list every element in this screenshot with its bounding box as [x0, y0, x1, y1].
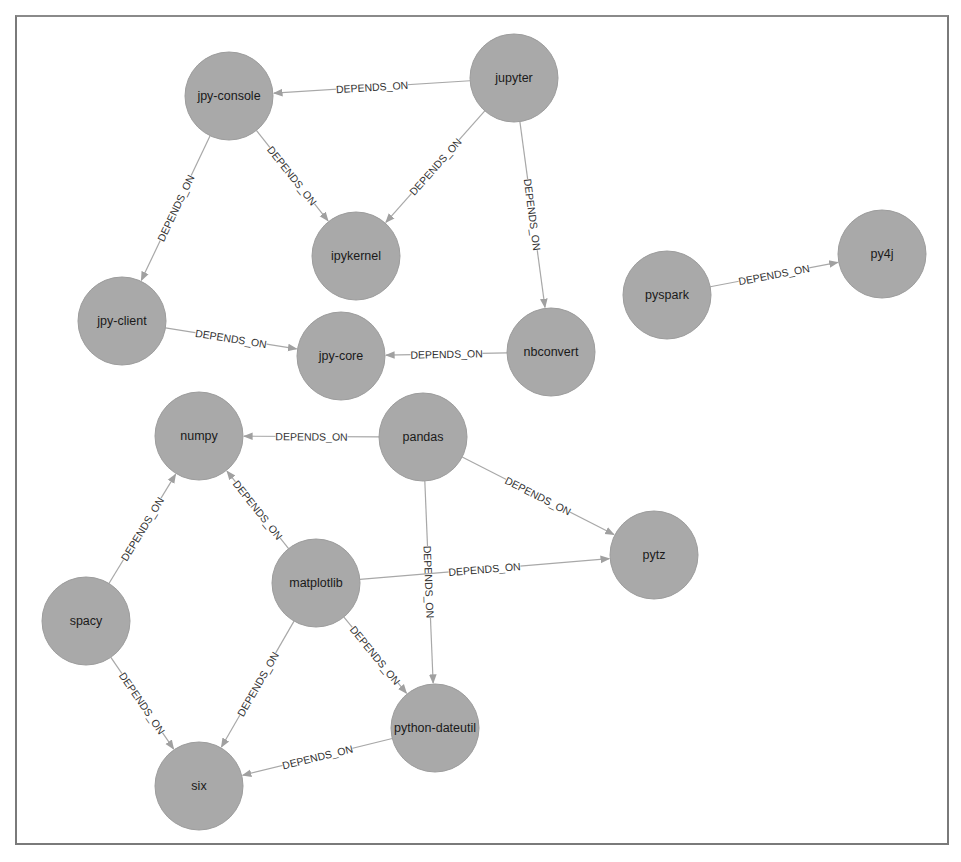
edge-label: DEPENDS_ON [407, 136, 464, 198]
node-label: jpy-console [196, 89, 260, 103]
edge-jpy-console-to-jpy-client[interactable]: DEPENDS_ON [141, 136, 210, 281]
node-label: numpy [180, 429, 218, 443]
node-label: ipykernel [331, 249, 381, 263]
node-label: jupyter [494, 71, 533, 85]
node-label: py4j [871, 247, 894, 261]
dependency-graph[interactable]: DEPENDS_ONDEPENDS_ONDEPENDS_ONDEPENDS_ON… [0, 0, 961, 862]
edge-label: DEPENDS_ON [421, 546, 436, 619]
edge-jpy-client-to-jpy-core[interactable]: DEPENDS_ON [165, 326, 296, 350]
edge-jupyter-to-ipykernel[interactable]: DEPENDS_ON [386, 111, 485, 222]
edge-jupyter-to-nbconvert[interactable]: DEPENDS_ON [520, 122, 545, 308]
node-label: spacy [70, 614, 103, 628]
node-jpy-core[interactable]: jpy-core [297, 312, 385, 400]
node-python-dateutil[interactable]: python-dateutil [391, 684, 479, 772]
node-label: six [191, 779, 207, 793]
node-jpy-client[interactable]: jpy-client [78, 277, 166, 365]
node-label: python-dateutil [394, 721, 476, 735]
edge-pandas-to-python-dateutil[interactable]: DEPENDS_ON [421, 481, 437, 683]
node-label: pytz [643, 548, 666, 562]
edge-label: DEPENDS_ON [522, 178, 544, 251]
edge-jupyter-to-jpy-console[interactable]: DEPENDS_ON [274, 78, 470, 96]
edge-pandas-to-numpy[interactable]: DEPENDS_ON [244, 429, 379, 442]
nodes-layer: jpy-consolejupyteripykerneljpy-clientjpy… [42, 34, 926, 830]
edge-label: DEPENDS_ON [410, 347, 483, 360]
node-nbconvert[interactable]: nbconvert [507, 308, 595, 396]
node-jpy-console[interactable]: jpy-console [185, 52, 273, 140]
edge-label: DEPENDS_ON [348, 623, 403, 687]
edge-matplotlib-to-python-dateutil[interactable]: DEPENDS_ON [344, 617, 407, 693]
edge-jpy-console-to-ipykernel[interactable]: DEPENDS_ON [256, 130, 328, 220]
node-spacy[interactable]: spacy [42, 577, 130, 665]
node-label: nbconvert [524, 345, 579, 359]
edge-matplotlib-to-six[interactable]: DEPENDS_ON [221, 621, 294, 747]
node-jupyter[interactable]: jupyter [470, 34, 558, 122]
node-six[interactable]: six [155, 742, 243, 830]
edge-label: DEPENDS_ON [275, 430, 347, 442]
edge-spacy-to-numpy[interactable]: DEPENDS_ON [109, 474, 176, 583]
node-label: pyspark [645, 288, 690, 302]
node-py4j[interactable]: py4j [838, 210, 926, 298]
node-ipykernel[interactable]: ipykernel [312, 212, 400, 300]
edge-label: DEPENDS_ON [118, 495, 166, 563]
node-label: pandas [402, 430, 443, 444]
node-pyspark[interactable]: pyspark [623, 251, 711, 339]
node-label: jpy-core [318, 349, 364, 363]
edge-matplotlib-to-pytz[interactable]: DEPENDS_ON [360, 559, 609, 580]
edge-matplotlib-to-numpy[interactable]: DEPENDS_ON [227, 471, 289, 548]
edge-spacy-to-six[interactable]: DEPENDS_ON [111, 657, 174, 749]
node-label: matplotlib [289, 576, 343, 590]
edge-label: DEPENDS_ON [737, 262, 810, 287]
edge-pandas-to-pytz[interactable]: DEPENDS_ON [462, 457, 614, 535]
edge-label: DEPENDS_ON [231, 478, 285, 542]
edge-label: DEPENDS_ON [234, 650, 281, 719]
edge-python-dateutil-to-six[interactable]: DEPENDS_ON [243, 739, 393, 776]
node-label: jpy-client [96, 314, 147, 328]
edge-pyspark-to-py4j[interactable]: DEPENDS_ON [710, 261, 838, 287]
edge-label: DEPENDS_ON [281, 742, 354, 771]
node-pytz[interactable]: pytz [610, 511, 698, 599]
edge-label: DEPENDS_ON [117, 670, 168, 736]
edge-label: DEPENDS_ON [503, 474, 573, 518]
edge-label: DEPENDS_ON [448, 560, 521, 578]
node-numpy[interactable]: numpy [155, 392, 243, 480]
node-pandas[interactable]: pandas [379, 393, 467, 481]
edge-label: DEPENDS_ON [336, 79, 409, 96]
edge-label: DEPENDS_ON [265, 144, 319, 208]
edge-nbconvert-to-jpy-core[interactable]: DEPENDS_ON [386, 346, 507, 360]
edge-label: DEPENDS_ON [155, 173, 197, 244]
node-matplotlib[interactable]: matplotlib [272, 539, 360, 627]
edge-label: DEPENDS_ON [194, 327, 267, 350]
